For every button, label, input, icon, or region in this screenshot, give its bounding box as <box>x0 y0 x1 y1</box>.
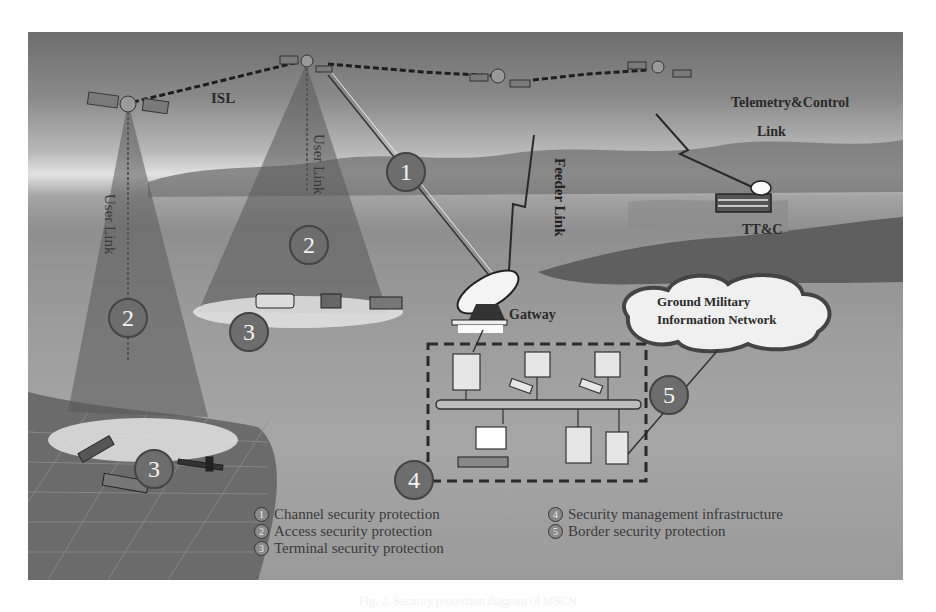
network-label-line1: Ground Military <box>657 294 750 310</box>
legend-number: 1 <box>254 507 269 522</box>
legend-text: Security management infrastructure <box>568 506 783 523</box>
legend-number: 5 <box>548 524 563 539</box>
legend-text: Access security protection <box>274 523 432 540</box>
scene-illustration <box>28 32 903 580</box>
legend-text: Channel security protection <box>274 506 440 523</box>
badge-terminal-security-mid: 3 <box>229 312 269 352</box>
badge-access-security-left: 2 <box>108 298 148 338</box>
legend-left: 1 Channel security protection 2 Access s… <box>254 506 444 557</box>
legend-item: 4 Security management infrastructure <box>548 506 783 523</box>
legend-right: 4 Security management infrastructure 5 B… <box>548 506 783 540</box>
gateway-label: Gatway <box>509 307 556 323</box>
legend-item: 3 Terminal security protection <box>254 540 444 557</box>
badge-border-security: 5 <box>649 375 689 415</box>
legend-text: Terminal security protection <box>274 540 444 557</box>
legend-item: 2 Access security protection <box>254 523 444 540</box>
legend-item: 5 Border security protection <box>548 523 783 540</box>
legend-item: 1 Channel security protection <box>254 506 444 523</box>
figure-caption: Fig. 2. Security protection diagram of M… <box>0 594 936 609</box>
telemetry-label-line2: Link <box>757 124 786 140</box>
isl-label: ISL <box>211 90 235 107</box>
feeder-link-label: Feeder Link <box>551 158 568 236</box>
telemetry-label-line1: Telemetry&Control <box>731 95 849 111</box>
ttc-label: TT&C <box>742 222 782 238</box>
badge-management-infrastructure: 4 <box>394 460 434 500</box>
badge-access-security-mid: 2 <box>289 225 329 265</box>
legend-number: 4 <box>548 507 563 522</box>
user-link-beam-left <box>68 102 208 417</box>
legend-number: 3 <box>254 541 269 556</box>
user-link-label-left: User Link <box>101 194 118 254</box>
network-label-line2: Information Network <box>657 312 777 328</box>
legend-text: Border security protection <box>568 523 725 540</box>
user-link-label-mid: User Link <box>310 134 327 194</box>
badge-channel-security: 1 <box>386 152 426 192</box>
diagram-frame: ISL User Link User Link Feeder Link Tele… <box>28 32 903 580</box>
legend-number: 2 <box>254 524 269 539</box>
badge-terminal-security-left: 3 <box>134 449 174 489</box>
